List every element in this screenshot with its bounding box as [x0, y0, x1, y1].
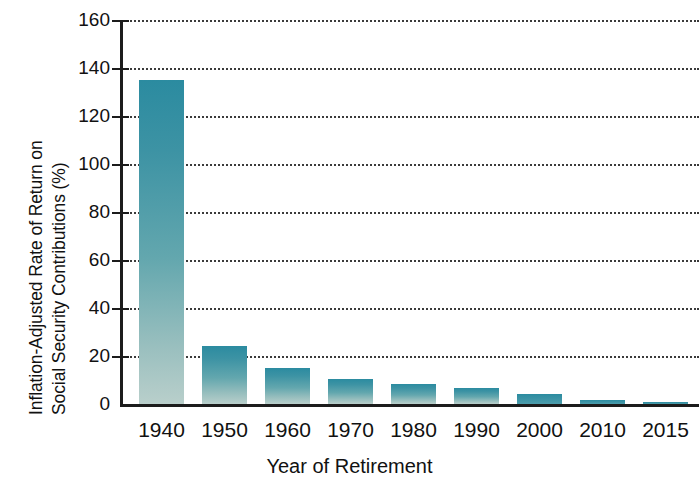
x-tick-label: 2015	[642, 418, 689, 442]
bar	[643, 402, 688, 404]
x-axis-title: Year of Retirement	[0, 455, 699, 478]
x-tick-label: 2010	[579, 418, 626, 442]
x-tick-label: 1950	[201, 418, 248, 442]
y-tick-label: 140	[78, 57, 110, 79]
bar	[328, 379, 373, 404]
y-tick-label: 60	[89, 249, 110, 271]
y-tick-label: 160	[78, 9, 110, 31]
y-tick-label: 120	[78, 105, 110, 127]
y-tick-label: 80	[89, 201, 110, 223]
x-tick-label: 1990	[453, 418, 500, 442]
x-tick-label: 1970	[327, 418, 374, 442]
x-tick-label: 2000	[516, 418, 563, 442]
bar	[391, 384, 436, 404]
x-tick-label: 1940	[138, 418, 185, 442]
x-tick-label: 1960	[264, 418, 311, 442]
y-tick-label: 0	[99, 393, 110, 415]
bars	[123, 20, 699, 404]
y-axis-title: Inflation-Adjusted Rate of Return on Soc…	[0, 0, 62, 430]
x-tick-label: 1980	[390, 418, 437, 442]
y-axis-title-line-2: Social Security Contributions (%)	[49, 163, 70, 416]
y-tick-label: 100	[78, 153, 110, 175]
y-tick-label: 20	[89, 345, 110, 367]
bar	[202, 346, 247, 404]
bar	[580, 400, 625, 404]
bar	[139, 80, 184, 404]
chart-figure: Inflation-Adjusted Rate of Return on Soc…	[0, 0, 699, 481]
x-axis-line	[120, 404, 699, 407]
bar	[454, 388, 499, 404]
bar	[517, 394, 562, 404]
bar	[265, 368, 310, 404]
y-axis-title-line-1: Inflation-Adjusted Rate of Return on	[26, 140, 47, 415]
y-tick-label: 40	[89, 297, 110, 319]
plot-area: 020406080100120140160 194019501960197019…	[120, 20, 699, 405]
